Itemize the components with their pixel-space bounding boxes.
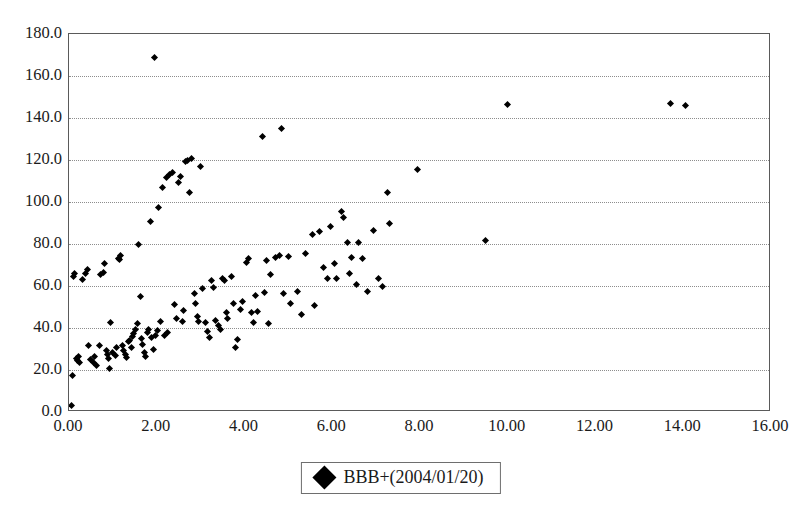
data-point bbox=[158, 184, 165, 191]
data-point bbox=[150, 345, 157, 352]
data-point bbox=[142, 353, 149, 360]
data-point bbox=[482, 237, 489, 244]
data-point bbox=[287, 300, 294, 307]
data-point bbox=[682, 102, 689, 109]
data-point bbox=[348, 254, 355, 261]
data-point bbox=[294, 288, 301, 295]
data-point bbox=[206, 334, 213, 341]
data-point bbox=[180, 307, 187, 314]
diamond-marker-icon bbox=[312, 465, 336, 489]
data-point bbox=[155, 204, 162, 211]
y-axis-tick-label: 180.0 bbox=[0, 25, 62, 42]
data-point bbox=[147, 218, 154, 225]
data-point bbox=[384, 189, 391, 196]
data-point bbox=[316, 228, 323, 235]
data-point bbox=[164, 329, 171, 336]
y-axis-tick-label: 160.0 bbox=[0, 67, 62, 84]
data-point bbox=[230, 300, 237, 307]
data-point bbox=[232, 344, 239, 351]
data-point bbox=[224, 315, 231, 322]
data-point bbox=[504, 101, 511, 108]
data-point bbox=[333, 275, 340, 282]
data-point bbox=[324, 275, 331, 282]
x-axis-tick-label: 6.00 bbox=[317, 418, 346, 435]
scatter-chart: 0.020.040.060.080.0100.0120.0140.0160.01… bbox=[0, 0, 801, 515]
data-points-layer bbox=[69, 34, 769, 410]
x-axis-tick-label: 14.00 bbox=[664, 418, 701, 435]
data-point bbox=[171, 301, 178, 308]
data-point bbox=[69, 372, 76, 379]
data-point bbox=[154, 327, 161, 334]
data-point bbox=[145, 326, 152, 333]
data-point bbox=[261, 289, 268, 296]
x-axis-tick-label: 4.00 bbox=[229, 418, 258, 435]
data-point bbox=[128, 344, 135, 351]
data-point bbox=[379, 282, 386, 289]
data-point bbox=[355, 239, 362, 246]
y-axis-tick-label: 60.0 bbox=[0, 277, 62, 294]
data-point bbox=[234, 336, 241, 343]
data-point bbox=[267, 271, 274, 278]
data-point bbox=[192, 300, 199, 307]
x-axis-tick-label: 2.00 bbox=[141, 418, 170, 435]
data-point bbox=[414, 166, 421, 173]
data-point bbox=[370, 227, 377, 234]
chart-legend: BBB+(2004/01/20) bbox=[300, 462, 500, 494]
data-point bbox=[106, 365, 113, 372]
data-point bbox=[320, 264, 327, 271]
data-point bbox=[179, 318, 186, 325]
data-point bbox=[340, 214, 347, 221]
legend-series-label: BBB+(2004/01/20) bbox=[343, 468, 483, 486]
data-point bbox=[309, 231, 316, 238]
data-point bbox=[248, 309, 255, 316]
data-point bbox=[280, 290, 287, 297]
data-point bbox=[137, 293, 144, 300]
data-point bbox=[197, 163, 204, 170]
data-point bbox=[311, 302, 318, 309]
x-axis-tick-label: 16.00 bbox=[751, 418, 788, 435]
y-axis-tick-label: 100.0 bbox=[0, 193, 62, 210]
data-point bbox=[298, 311, 305, 318]
data-point bbox=[344, 239, 351, 246]
data-point bbox=[186, 189, 193, 196]
data-point bbox=[101, 260, 108, 267]
data-point bbox=[93, 362, 100, 369]
y-axis-tick-label: 140.0 bbox=[0, 109, 62, 126]
data-point bbox=[85, 342, 92, 349]
data-point bbox=[327, 223, 334, 230]
data-point bbox=[237, 306, 244, 313]
data-point bbox=[375, 275, 382, 282]
data-point bbox=[228, 273, 235, 280]
data-point bbox=[107, 319, 114, 326]
data-point bbox=[221, 277, 228, 284]
x-axis-tick-label: 10.00 bbox=[488, 418, 525, 435]
data-point bbox=[132, 326, 139, 333]
data-point bbox=[139, 341, 146, 348]
x-axis-tick-label: 0.00 bbox=[54, 418, 83, 435]
data-point bbox=[210, 284, 217, 291]
plot-area bbox=[68, 33, 770, 411]
data-point bbox=[667, 100, 674, 107]
data-point bbox=[239, 298, 246, 305]
data-point bbox=[79, 276, 86, 283]
data-point bbox=[278, 125, 285, 132]
data-point bbox=[190, 290, 197, 297]
y-axis-tick-label: 40.0 bbox=[0, 319, 62, 336]
x-axis-labels: 0.002.004.006.008.0010.0012.0014.0016.00 bbox=[68, 418, 770, 442]
data-point bbox=[76, 359, 83, 366]
data-point bbox=[201, 319, 208, 326]
data-point bbox=[331, 260, 338, 267]
data-point bbox=[208, 277, 215, 284]
data-point bbox=[302, 250, 309, 257]
data-point bbox=[252, 292, 259, 299]
data-point bbox=[96, 342, 103, 349]
data-point bbox=[263, 257, 270, 264]
y-axis-tick-label: 120.0 bbox=[0, 151, 62, 168]
data-point bbox=[259, 133, 266, 140]
data-point bbox=[359, 255, 366, 262]
data-point bbox=[69, 402, 75, 409]
data-point bbox=[364, 288, 371, 295]
data-point bbox=[151, 54, 158, 61]
data-point bbox=[135, 240, 142, 247]
data-point bbox=[199, 285, 206, 292]
